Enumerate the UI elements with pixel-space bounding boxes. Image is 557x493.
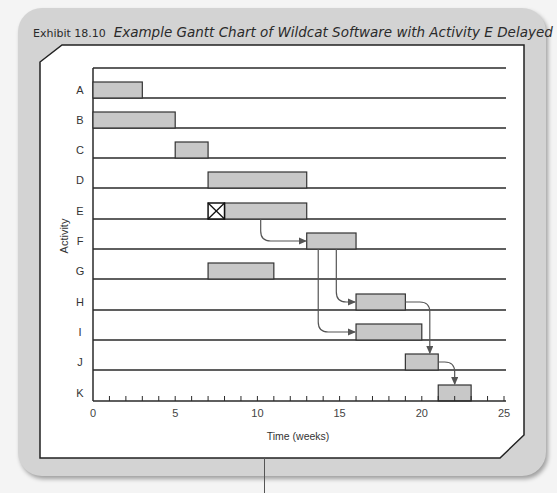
activity-label-f: F (77, 235, 84, 247)
activity-label-i: I (78, 326, 81, 338)
bar-e (225, 203, 307, 219)
bar-c (175, 142, 208, 158)
activity-label-g: G (76, 265, 85, 277)
activity-label-b: B (76, 114, 83, 126)
gantt-chart: 0510152025 ABCDEFGHIJK Activity Time (we… (0, 0, 557, 493)
book-spine-line (264, 458, 265, 493)
bar-j (405, 354, 438, 370)
x-tick-label: 20 (416, 407, 428, 419)
x-tick-label: 5 (172, 407, 178, 419)
bar-f (307, 233, 356, 249)
activity-label-j: J (77, 356, 83, 368)
x-tick-label: 10 (251, 407, 263, 419)
bar-a (93, 82, 142, 98)
x-tick-label: 25 (498, 407, 510, 419)
x-axis-label: Time (weeks) (267, 430, 330, 442)
activity-label-a: A (76, 84, 84, 96)
activity-label-c: C (76, 144, 84, 156)
activity-label-d: D (76, 174, 84, 186)
y-axis-label: Activity (58, 218, 70, 253)
x-tick-label: 15 (333, 407, 345, 419)
activity-label-k: K (76, 387, 84, 399)
bar-h (356, 294, 405, 310)
activity-label-h: H (76, 296, 84, 308)
activity-label-e: E (76, 205, 83, 217)
bar-b (93, 112, 175, 128)
x-tick-label: 0 (90, 407, 96, 419)
bar-d (208, 172, 307, 188)
bar-g (208, 263, 274, 279)
bar-i (356, 324, 422, 340)
